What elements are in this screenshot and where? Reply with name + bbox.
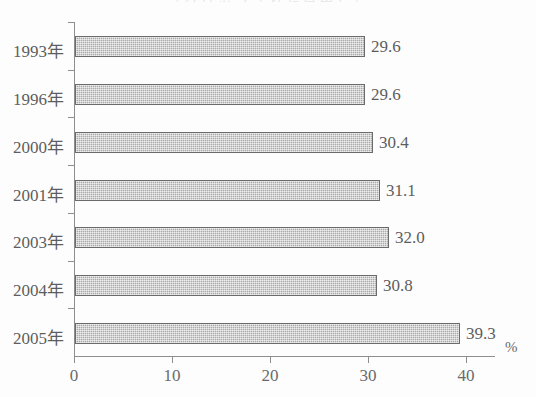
y-axis-tick bbox=[68, 70, 75, 71]
plot-area: 1993年1996年2000年2001年2003年2004年2005年 29.6… bbox=[0, 0, 536, 397]
x-axis-tick-label: 30 bbox=[360, 366, 377, 386]
x-axis-tick-label: 40 bbox=[458, 366, 475, 386]
value-label: 29.6 bbox=[371, 37, 401, 57]
x-axis-tick bbox=[368, 357, 369, 363]
value-label: 32.0 bbox=[395, 228, 425, 248]
bar-chart: ［クリップされた見出し］ 1993年1996年2000年2001年2003年20… bbox=[0, 0, 536, 397]
category-label: 2001年 bbox=[13, 181, 64, 206]
y-axis-tick bbox=[68, 165, 75, 166]
x-axis-tick bbox=[466, 357, 467, 363]
bar bbox=[75, 84, 365, 105]
value-label: 30.8 bbox=[383, 276, 413, 296]
x-axis-tick bbox=[270, 357, 271, 363]
category-label: 2004年 bbox=[13, 276, 64, 301]
value-label: 39.3 bbox=[466, 324, 496, 344]
bar bbox=[75, 180, 380, 201]
x-axis-tick-label: 0 bbox=[70, 366, 79, 386]
y-axis-tick bbox=[68, 213, 75, 214]
value-label: 31.1 bbox=[386, 181, 416, 201]
x-axis-tick-label: 20 bbox=[262, 366, 279, 386]
x-axis-tick bbox=[74, 357, 75, 363]
category-label: 2005年 bbox=[13, 324, 64, 349]
category-label: 2003年 bbox=[13, 228, 64, 253]
value-label: 29.6 bbox=[371, 85, 401, 105]
unit-label: % bbox=[505, 339, 518, 356]
bar bbox=[75, 132, 373, 153]
category-label: 2000年 bbox=[13, 133, 64, 158]
bar bbox=[75, 323, 460, 344]
y-axis-tick bbox=[68, 117, 75, 118]
y-axis-tick bbox=[68, 261, 75, 262]
x-axis-tick bbox=[172, 357, 173, 363]
x-axis-tick-label: 10 bbox=[164, 366, 181, 386]
bar bbox=[75, 227, 389, 248]
y-axis-tick bbox=[68, 308, 75, 309]
value-label: 30.4 bbox=[379, 133, 409, 153]
category-label: 1993年 bbox=[13, 37, 64, 62]
category-label: 1996年 bbox=[13, 85, 64, 110]
bar bbox=[75, 36, 365, 57]
x-axis-line bbox=[74, 356, 495, 357]
bar bbox=[75, 275, 377, 296]
y-axis-top-tick bbox=[68, 22, 75, 23]
